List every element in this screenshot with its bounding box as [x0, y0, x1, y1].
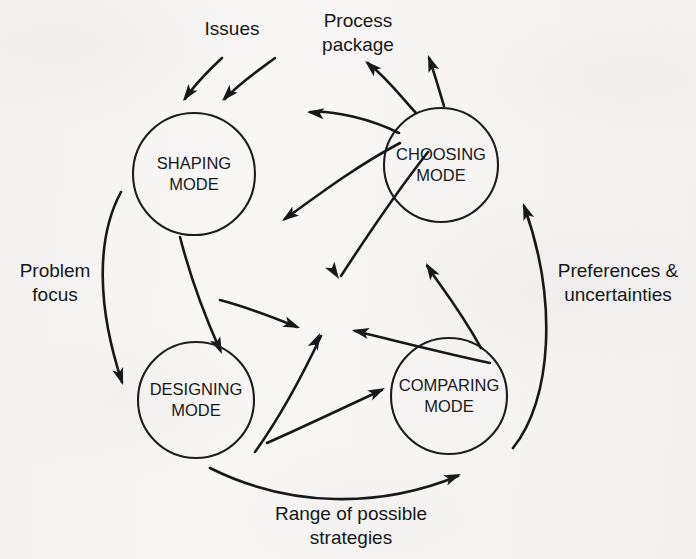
cycle-diagram: SHAPINGMODECHOOSINGMODEDESIGNINGMODECOMP…: [0, 0, 696, 559]
edge-label-range: Range of possiblestrategies: [275, 503, 427, 548]
node-label-shaping-line1: SHAPING: [157, 154, 231, 172]
edge-label-problem-focus-line2: focus: [32, 284, 77, 305]
edge-label-preferences: Preferences &uncertainties: [558, 260, 679, 305]
link-choosing-to-shaping: [310, 112, 399, 133]
arrowhead-head-preferences: [518, 201, 534, 221]
arrowhead-head-problem-focus: [112, 367, 128, 387]
arrowhead-head-designing-compare: [367, 383, 387, 401]
edge-label-preferences-line1: Preferences &: [558, 260, 679, 281]
arrowhead-head-choosing-center: [325, 262, 344, 282]
node-label-designing-line1: DESIGNING: [150, 380, 243, 398]
node-designing[interactable]: DESIGNINGMODE: [138, 342, 254, 458]
link-designing-to-comparing: [267, 390, 382, 443]
arrowhead-head-choosing-sh-lower: [279, 206, 299, 225]
link-choosing-to-shaping-lower: [285, 143, 400, 219]
edge-label-problem-focus-line1: Problem: [20, 260, 91, 281]
link-comparing-to-choosing: [427, 266, 481, 348]
node-label-choosing-line1: CHOOSING: [396, 145, 486, 163]
edge-label-range-line1: Range of possible: [275, 503, 427, 524]
link-shaping-to-center: [220, 300, 297, 327]
arrowhead-head-comparing-center: [351, 325, 370, 339]
node-circle-choosing: [384, 108, 498, 222]
nodes-layer: SHAPINGMODECHOOSINGMODEDESIGNINGMODECOMP…: [133, 108, 507, 458]
node-circle-shaping: [133, 113, 255, 235]
edge-labels-layer: IssuesProcesspackageProblemfocusPreferen…: [20, 10, 679, 548]
link-designing-range-comparing: [210, 468, 458, 499]
node-label-choosing-line2: MODE: [416, 166, 466, 184]
node-shaping[interactable]: SHAPINGMODE: [133, 113, 255, 235]
edge-label-problem-focus: Problemfocus: [20, 260, 91, 305]
node-label-comparing-line2: MODE: [424, 397, 474, 415]
edge-label-process-line1: Process: [324, 10, 393, 31]
link-shaping-to-designing: [180, 237, 220, 350]
edge-label-process: Processpackage: [322, 10, 394, 55]
arrowhead-head-shaping-center: [282, 316, 302, 333]
edge-label-process-line2: package: [322, 34, 394, 55]
arrowhead-head-comparing-choosing: [421, 260, 440, 280]
arrowhead-head-process-right: [423, 53, 439, 73]
link-comparing-to-center: [355, 331, 490, 363]
node-label-comparing-line1: COMPARING: [399, 376, 500, 394]
link-choosing-to-process-left: [368, 63, 416, 113]
node-circle-comparing: [391, 338, 507, 454]
edge-label-preferences-line2: uncertainties: [564, 284, 672, 305]
edge-label-issues: Issues: [205, 18, 260, 39]
arrowhead-head-designing-center: [308, 331, 325, 351]
arrowheads-layer: [112, 53, 534, 485]
link-comparing-preferences: [513, 206, 546, 448]
node-label-designing-line2: MODE: [171, 401, 221, 419]
arrowhead-head-range-strategies: [443, 469, 463, 486]
figure-page: SHAPINGMODECHOOSINGMODEDESIGNINGMODECOMP…: [0, 0, 696, 559]
node-choosing[interactable]: CHOOSINGMODE: [384, 108, 498, 222]
link-shaping-problem-focus: [103, 192, 122, 382]
node-comparing[interactable]: COMPARINGMODE: [391, 338, 507, 454]
node-circle-designing: [138, 342, 254, 458]
edge-label-issues-line1: Issues: [205, 18, 260, 39]
edge-label-range-line2: strategies: [310, 527, 392, 548]
node-label-shaping-line2: MODE: [169, 175, 219, 193]
